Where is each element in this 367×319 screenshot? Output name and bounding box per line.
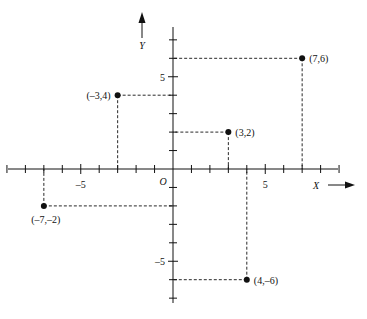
y-tick-label: 5 <box>160 72 165 83</box>
point-marker <box>115 92 121 98</box>
origin-label: O <box>159 176 166 187</box>
y-axis-arrow-icon <box>139 12 146 23</box>
point-marker <box>244 277 250 283</box>
point-marker <box>299 55 305 61</box>
x-tick-label: –5 <box>75 179 86 190</box>
x-axis-arrow-icon <box>345 182 355 189</box>
point-marker <box>41 203 47 209</box>
point-label: (–3,4) <box>86 90 110 102</box>
y-tick-label: –5 <box>154 256 165 267</box>
point-label: (3,2) <box>235 127 254 139</box>
coordinate-plane: –555–5OXY(7,6)(–3,4)(3,2)(–7,–2)(4,–6) <box>0 0 367 319</box>
point-label: (–7,–2) <box>31 214 60 226</box>
point-label: (4,–6) <box>254 275 278 287</box>
labels: –555–5OXY(7,6)(–3,4)(3,2)(–7,–2)(4,–6) <box>31 40 328 287</box>
y-axis-label: Y <box>139 40 146 51</box>
x-tick-label: 5 <box>263 179 268 190</box>
x-axis-label: X <box>312 180 320 191</box>
point-marker <box>225 129 231 135</box>
point-label: (7,6) <box>309 53 328 65</box>
